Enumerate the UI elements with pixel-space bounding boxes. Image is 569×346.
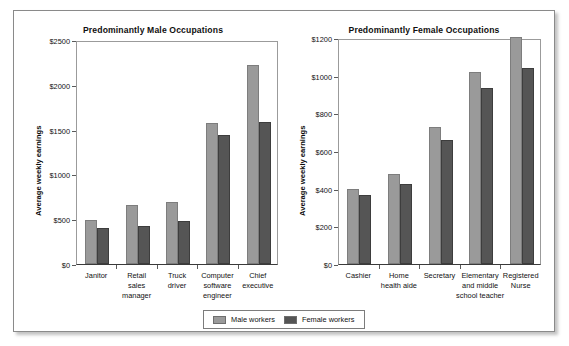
bar-male xyxy=(469,72,481,264)
bar-female xyxy=(481,88,493,264)
x-tick-mark xyxy=(197,265,198,269)
chart-panel-female-occupations: Predominantly Female Occupations Average… xyxy=(292,11,556,333)
bar-female xyxy=(400,184,412,264)
legend-label-male: Male workers xyxy=(231,315,275,324)
bar-female xyxy=(138,226,150,264)
y-axis-label-male-chart: Average weekly earnings xyxy=(34,126,43,216)
x-tick-mark xyxy=(238,265,239,269)
x-tick-mark xyxy=(379,265,380,269)
y-tick-mark xyxy=(72,265,76,266)
x-tick-mark xyxy=(116,265,117,269)
bar-female xyxy=(218,135,230,264)
legend-label-female: Female workers xyxy=(302,315,355,324)
bar-female xyxy=(178,221,190,264)
plot-area-male-chart xyxy=(76,41,278,265)
y-tick-label: $0 xyxy=(62,261,70,270)
bar-male xyxy=(206,123,218,264)
x-axis-category-label: Registered Nurse xyxy=(495,271,547,291)
bar-female xyxy=(359,195,371,264)
figure-frame: Predominantly Male Occupations Average w… xyxy=(13,10,555,332)
bar-male xyxy=(388,174,400,264)
plot-area-female-chart xyxy=(338,39,541,265)
chart-title-female-occupations: Predominantly Female Occupations xyxy=(292,25,556,35)
y-tick-label: $0 xyxy=(324,261,332,270)
y-tick-label: $800 xyxy=(316,110,332,119)
y-tick-label: $200 xyxy=(316,223,332,232)
bar-female xyxy=(441,140,453,264)
y-tick-label: $2000 xyxy=(49,81,70,90)
x-tick-mark xyxy=(500,265,501,269)
bar-male xyxy=(166,202,178,264)
y-tick-label: $1500 xyxy=(49,126,70,135)
bar-male xyxy=(247,65,259,264)
y-tick-label: $2500 xyxy=(49,37,70,46)
x-axis-category-label: Truck driver xyxy=(154,271,200,291)
x-axis-category-label: Computer software engineer xyxy=(194,271,240,302)
bar-male xyxy=(347,189,359,264)
y-tick-label: $500 xyxy=(54,216,70,225)
bar-male xyxy=(85,220,97,264)
legend-swatch-male-icon xyxy=(213,316,226,324)
y-tick-label: $600 xyxy=(316,148,332,157)
chart-legend: Male workers Female workers xyxy=(203,310,365,329)
legend-swatch-female-icon xyxy=(284,316,297,324)
chart-panel-male-occupations: Predominantly Male Occupations Average w… xyxy=(14,11,292,333)
bar-male xyxy=(126,205,138,264)
bar-female xyxy=(97,228,109,264)
y-tick-mark xyxy=(334,265,338,266)
bar-male xyxy=(510,37,522,264)
legend-entry-female: Female workers xyxy=(284,315,355,324)
y-tick-label: $1000 xyxy=(49,171,70,180)
x-axis-category-label: Janitor xyxy=(73,271,119,281)
y-tick-label: $400 xyxy=(316,185,332,194)
y-axis-label-female-chart: Average weekly earnings xyxy=(298,126,307,216)
x-axis-category-label: Retail sales manager xyxy=(114,271,160,302)
y-tick-label: $1000 xyxy=(311,72,332,81)
legend-entry-male: Male workers xyxy=(213,315,275,324)
x-axis-category-label: Chief executive xyxy=(235,271,281,291)
bar-male xyxy=(429,127,441,264)
bar-female xyxy=(522,68,534,264)
chart-title-male-occupations: Predominantly Male Occupations xyxy=(14,25,292,35)
x-tick-mark xyxy=(419,265,420,269)
x-tick-mark xyxy=(157,265,158,269)
x-tick-mark xyxy=(460,265,461,269)
bar-female xyxy=(259,122,271,264)
y-tick-label: $1200 xyxy=(311,35,332,44)
